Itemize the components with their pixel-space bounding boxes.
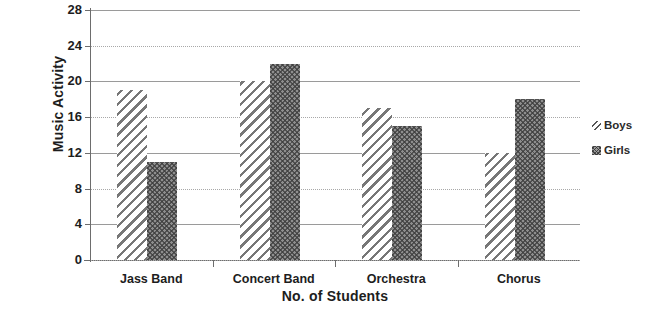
bar-girls-orchestra	[392, 126, 422, 260]
y-tick-label: 16	[48, 109, 82, 124]
x-tick-mark	[458, 260, 459, 267]
legend-swatch-icon	[592, 121, 601, 130]
x-tick-label: Jass Band	[120, 272, 183, 286]
y-tick-label: 4	[48, 216, 82, 231]
legend-item-boys[interactable]: Boys	[592, 118, 646, 132]
y-tick-label: 28	[48, 2, 82, 17]
x-axis-title: No. of Students	[90, 288, 580, 304]
y-tick-label: 8	[48, 181, 82, 196]
bar-boys-orchestra	[362, 108, 392, 260]
legend-item-girls[interactable]: Girls	[592, 143, 646, 157]
y-tick-mark	[85, 46, 91, 47]
gridline	[90, 81, 580, 82]
y-tick-mark	[85, 10, 91, 11]
gridline	[90, 46, 580, 47]
y-tick-mark	[85, 117, 91, 118]
y-tick-mark	[85, 224, 91, 225]
legend-label: Girls	[604, 144, 630, 156]
legend-label: Boys	[604, 119, 632, 131]
x-tick-label: Chorus	[497, 272, 541, 286]
plot-area: Jass BandConcert BandOrchestraChorus	[90, 10, 580, 260]
bar-girls-concert-band	[270, 64, 300, 260]
y-tick-mark	[85, 189, 91, 190]
y-tick-mark	[85, 153, 91, 154]
y-tick-mark	[85, 260, 91, 261]
y-tick-label: 0	[48, 252, 82, 267]
x-tick-mark	[335, 260, 336, 267]
bar-chart: Music Activity 0481216202428 Jass BandCo…	[0, 0, 646, 317]
legend-swatch-icon	[592, 146, 601, 155]
bar-girls-chorus	[515, 99, 545, 260]
bar-boys-jass-band	[117, 90, 147, 260]
bar-boys-chorus	[485, 153, 515, 260]
y-tick-label: 20	[48, 73, 82, 88]
x-tick-mark	[213, 260, 214, 267]
x-tick-label: Orchestra	[367, 272, 426, 286]
bar-girls-jass-band	[147, 162, 177, 260]
y-tick-mark	[85, 81, 91, 82]
gridline	[90, 10, 580, 11]
x-tick-label: Concert Band	[233, 272, 315, 286]
y-tick-label: 12	[48, 145, 82, 160]
y-tick-label: 24	[48, 38, 82, 53]
y-axis-tick-labels: 0481216202428	[44, 0, 82, 317]
bar-boys-concert-band	[240, 81, 270, 260]
chart-legend: BoysGirls	[592, 118, 646, 168]
gridline	[90, 117, 580, 118]
